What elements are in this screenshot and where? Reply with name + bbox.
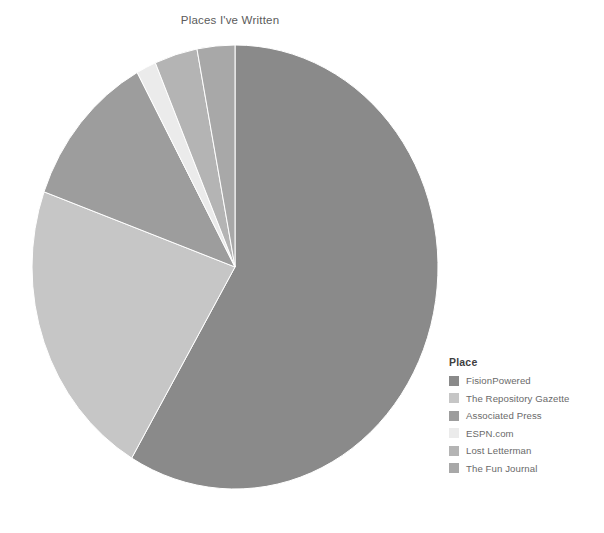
pie-svg bbox=[32, 45, 438, 489]
legend-item[interactable]: Lost Letterman bbox=[449, 442, 599, 460]
pie-slice-group bbox=[32, 45, 438, 489]
legend-item[interactable]: The Fun Journal bbox=[449, 460, 599, 478]
pie-chart-figure: Places I've Written Place FisionPoweredT… bbox=[0, 0, 604, 533]
legend-title: Place bbox=[449, 356, 599, 368]
legend-color-swatch bbox=[449, 393, 459, 403]
legend-item-label: The Fun Journal bbox=[466, 463, 537, 474]
legend-item-label: FisionPowered bbox=[466, 375, 531, 386]
legend-color-swatch bbox=[449, 411, 459, 421]
legend-item[interactable]: ESPN.com bbox=[449, 425, 599, 443]
legend-color-swatch bbox=[449, 428, 459, 438]
legend: Place FisionPoweredThe Repository Gazett… bbox=[449, 356, 599, 477]
legend-item-list: FisionPoweredThe Repository GazetteAssoc… bbox=[449, 372, 599, 477]
legend-color-swatch bbox=[449, 446, 459, 456]
legend-item[interactable]: The Repository Gazette bbox=[449, 390, 599, 408]
legend-item-label: Lost Letterman bbox=[466, 445, 531, 456]
legend-item-label: ESPN.com bbox=[466, 428, 514, 439]
legend-item-label: The Repository Gazette bbox=[466, 393, 570, 404]
pie-plot-area bbox=[32, 45, 438, 489]
chart-title: Places I've Written bbox=[0, 14, 460, 26]
legend-color-swatch bbox=[449, 463, 459, 473]
legend-item[interactable]: FisionPowered bbox=[449, 372, 599, 390]
legend-item[interactable]: Associated Press bbox=[449, 407, 599, 425]
legend-item-label: Associated Press bbox=[466, 410, 542, 421]
legend-color-swatch bbox=[449, 376, 459, 386]
